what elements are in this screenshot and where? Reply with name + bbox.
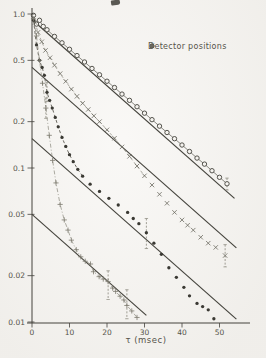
open-circle-marker xyxy=(135,105,139,109)
cross-marker xyxy=(75,94,79,98)
filled-circle-marker xyxy=(45,91,48,94)
open-circle-marker xyxy=(187,149,191,153)
cross-marker xyxy=(48,56,52,60)
open-circle-marker xyxy=(41,24,45,28)
filled-circle-marker xyxy=(107,197,110,200)
cross-marker xyxy=(80,101,84,105)
open-circle-marker xyxy=(157,124,161,128)
y-tick-label: 0.01 xyxy=(8,318,25,327)
filled-circle-marker xyxy=(182,286,185,289)
open-circle-marker xyxy=(142,111,146,115)
cross-marker xyxy=(185,223,189,227)
open-circle-marker xyxy=(90,66,94,70)
filled-circle-marker xyxy=(81,175,84,178)
decay-plot: 1.00.50.20.10.050.020.0101020304050 xyxy=(0,0,266,358)
filled-circle-marker xyxy=(201,305,204,308)
open-circle-marker xyxy=(75,53,79,57)
y-tick-label: 0.02 xyxy=(8,271,25,280)
cross-marker xyxy=(191,228,195,232)
x-axis-label: τ (msec) xyxy=(110,335,182,345)
fit-line-2 xyxy=(32,67,236,247)
y-tick-label: 0.2 xyxy=(13,117,25,126)
cross-marker xyxy=(69,87,73,91)
plus-marker xyxy=(69,238,74,243)
open-circle-marker xyxy=(105,79,109,83)
cross-marker xyxy=(64,79,68,83)
filled-circle-marker xyxy=(35,43,38,46)
open-circle-marker xyxy=(37,18,41,22)
filled-circle-marker xyxy=(188,294,191,297)
plus-marker xyxy=(58,202,63,207)
open-circle-marker xyxy=(165,130,169,134)
cross-marker xyxy=(97,119,101,123)
open-circle-marker xyxy=(210,169,214,173)
filled-circle-marker xyxy=(126,211,129,214)
filled-circle-marker xyxy=(40,66,43,69)
y-tick-label: 1.0 xyxy=(13,10,25,19)
open-circle-marker xyxy=(45,28,49,32)
cross-marker xyxy=(58,71,62,75)
open-circle-marker xyxy=(120,92,124,96)
cross-marker xyxy=(43,48,47,52)
fit-lines-group xyxy=(32,21,236,319)
cross-marker xyxy=(127,154,131,158)
filled-circle-marker xyxy=(88,183,91,186)
cross-marker xyxy=(120,145,124,149)
cross-marker xyxy=(92,114,96,118)
plus-marker xyxy=(40,81,45,86)
filled-circle-marker xyxy=(68,153,71,156)
open-circle-marker xyxy=(82,60,86,64)
open-circle-marker xyxy=(60,41,64,45)
plus-marker xyxy=(62,217,67,222)
plus-marker xyxy=(65,228,70,233)
filled-circle-marker xyxy=(137,222,140,225)
filled-circle-marker xyxy=(60,136,63,139)
plus-marker xyxy=(101,276,106,281)
filled-circle-marker xyxy=(167,266,170,269)
plus-marker xyxy=(34,33,39,38)
cross-marker xyxy=(105,128,109,132)
open-circle-marker xyxy=(67,47,71,51)
filled-circle-marker xyxy=(212,317,215,320)
filled-circle-marker xyxy=(72,160,75,163)
cross-marker xyxy=(150,183,154,187)
cross-marker xyxy=(52,63,56,67)
filled-circle-marker xyxy=(57,125,60,128)
fit-line-4 xyxy=(32,214,146,315)
cross-marker xyxy=(86,107,90,111)
filled-circle-marker xyxy=(132,217,135,220)
cross-marker xyxy=(165,201,169,205)
filled-circle-marker xyxy=(152,242,155,245)
cross-marker xyxy=(135,164,139,168)
open-circle-marker xyxy=(202,162,206,166)
cross-marker xyxy=(214,245,218,249)
scanned-figure: 1.00.50.20.10.050.020.0101020304050 Dete… xyxy=(0,0,266,358)
open-circle-marker xyxy=(180,143,184,147)
open-circle-marker xyxy=(127,98,131,102)
open-circle-marker xyxy=(150,117,154,121)
open-circle-marker xyxy=(112,85,116,89)
filled-circle-marker xyxy=(175,276,178,279)
filled-circle-marker xyxy=(43,74,46,77)
plus-marker xyxy=(37,58,42,63)
plus-marker xyxy=(43,105,48,110)
filled-circle-marker xyxy=(64,145,67,148)
plus-marker xyxy=(121,297,126,302)
x-tick-label: 0 xyxy=(30,328,35,337)
filled-circle-marker xyxy=(54,116,57,119)
plus-marker xyxy=(110,286,115,291)
filled-circle-marker xyxy=(195,302,198,305)
filled-circle-marker xyxy=(160,253,163,256)
y-tick-label: 0.05 xyxy=(8,210,25,219)
cross-marker xyxy=(157,192,161,196)
filled-circle-marker xyxy=(51,106,54,109)
cross-marker xyxy=(199,235,203,239)
open-circle-marker xyxy=(52,34,56,38)
cross-marker xyxy=(206,241,210,245)
x-tick-label: 10 xyxy=(65,328,75,337)
cross-marker xyxy=(172,210,176,214)
filled-circle-marker xyxy=(48,99,51,102)
fit-line-1 xyxy=(34,21,235,198)
cross-marker xyxy=(142,174,146,178)
plus-marker xyxy=(53,180,58,185)
